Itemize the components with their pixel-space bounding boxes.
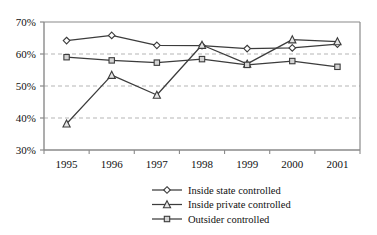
data-point-marker [335, 64, 340, 69]
line-chart: 30%40%50%60%70% 199519961997199819992000… [0, 0, 377, 235]
y-axis-label: 30% [16, 144, 36, 156]
y-axis-label: 50% [16, 80, 36, 92]
x-axis-label: 2000 [281, 158, 304, 170]
x-axis-label: 1998 [191, 158, 214, 170]
y-axis-labels: 30%40%50%60%70% [16, 16, 36, 156]
chart-legend: Inside state controlledInside private co… [152, 185, 291, 225]
data-point-marker [199, 56, 204, 61]
legend-item-triangle[interactable]: Inside private controlled [152, 199, 291, 210]
series-square [64, 55, 340, 70]
legend-item-diamond[interactable]: Inside state controlled [152, 185, 281, 196]
data-point-marker [154, 60, 159, 65]
chart-canvas: 30%40%50%60%70% 199519961997199819992000… [0, 0, 377, 235]
x-axis-labels: 1995199619971998199920002001 [56, 158, 349, 170]
legend-label: Outsider controlled [188, 214, 270, 225]
data-point-marker [244, 45, 251, 52]
legend-marker-square-icon [164, 216, 169, 221]
y-axis-label: 70% [16, 16, 36, 28]
data-point-marker [154, 42, 161, 49]
x-axis-label: 1997 [146, 158, 169, 170]
x-axis-label: 2001 [326, 158, 348, 170]
y-axis-label: 40% [16, 112, 36, 124]
series-line [67, 40, 338, 124]
data-point-marker [64, 55, 69, 60]
legend-label: Inside private controlled [188, 199, 291, 210]
data-point-marker [289, 45, 296, 52]
data-point-marker [290, 58, 295, 63]
data-point-marker [63, 37, 70, 44]
legend-label: Inside state controlled [188, 185, 281, 196]
legend-item-square[interactable]: Outsider controlled [152, 214, 270, 225]
legend-marker-diamond-icon [164, 187, 171, 194]
x-axis-label: 1995 [56, 158, 79, 170]
data-point-marker [108, 32, 115, 39]
y-axis-label: 60% [16, 48, 36, 60]
data-point-marker [244, 62, 249, 67]
data-point-marker [109, 58, 114, 63]
series-lines [63, 32, 341, 127]
x-axis-label: 1996 [101, 158, 124, 170]
x-axis-label: 1999 [236, 158, 259, 170]
data-point-marker [108, 71, 115, 78]
